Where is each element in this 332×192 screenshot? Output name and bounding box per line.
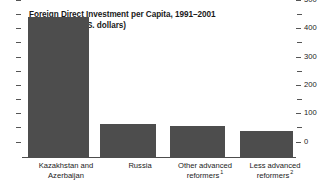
y-axis-tick-mark (297, 127, 302, 128)
plot-area (22, 16, 295, 158)
y-axis-tick-label: 400 (304, 25, 317, 33)
y-axis-tick-mark (16, 127, 21, 128)
y-axis-tick-mark (296, 28, 301, 29)
y-axis-tick-mark (297, 99, 302, 100)
chart-figure: Foreign Direct Investment per Capita, 19… (0, 0, 332, 192)
footnote-marker: 2 (290, 169, 293, 175)
x-axis-category-labels: Kazakhstan andAzerbaijanRussiaOther adva… (0, 161, 332, 191)
bar (28, 17, 89, 158)
y-axis-tick-mark (16, 113, 21, 114)
y-axis-ticks-right: 0100200300400500 (296, 0, 297, 142)
y-axis-tick-mark (16, 0, 21, 1)
y-axis-tick-mark (16, 142, 21, 143)
y-axis-tick-mark (16, 28, 21, 29)
x-axis-line (22, 157, 296, 158)
y-axis-tick-label: 500 (304, 0, 317, 4)
y-axis-tick-mark (16, 42, 21, 43)
y-axis-tick-mark (16, 14, 21, 15)
y-axis-tick-mark (297, 42, 302, 43)
bar (100, 124, 156, 158)
y-axis-ticks-left (16, 0, 17, 142)
y-axis-tick-mark (296, 57, 301, 58)
y-axis-tick-mark (296, 0, 301, 1)
y-axis-tick-mark (297, 14, 302, 15)
y-axis-tick-mark (297, 71, 302, 72)
bar-series (22, 16, 295, 158)
y-axis-tick-mark (16, 57, 21, 58)
y-axis-tick-mark (296, 142, 301, 143)
y-axis-tick-mark (16, 85, 21, 86)
y-axis-tick-mark (296, 85, 301, 86)
bar (170, 126, 225, 158)
y-axis-tick-label: 0 (304, 138, 308, 146)
y-axis-tick-label: 300 (304, 53, 317, 61)
x-axis-category-label: Less advancedreformers2 (212, 161, 332, 180)
bar (240, 131, 293, 157)
y-axis-tick-mark (16, 99, 21, 100)
y-axis-tick-mark (296, 113, 301, 114)
y-axis-tick-label: 200 (304, 81, 317, 89)
y-axis-tick-mark (16, 71, 21, 72)
y-axis-tick-label: 100 (304, 109, 317, 117)
